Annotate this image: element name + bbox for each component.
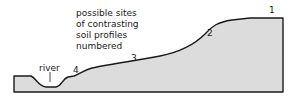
site-number-1: 1 <box>269 5 275 15</box>
site-number-2: 2 <box>207 28 213 38</box>
site-number-3: 3 <box>131 53 137 63</box>
river-label: river <box>39 63 60 73</box>
landscape-cross-section <box>0 0 293 102</box>
site-number-4: 4 <box>73 65 79 75</box>
diagram-caption: possible sites of contrasting soil profi… <box>76 8 139 52</box>
terrain-profile <box>14 18 283 92</box>
